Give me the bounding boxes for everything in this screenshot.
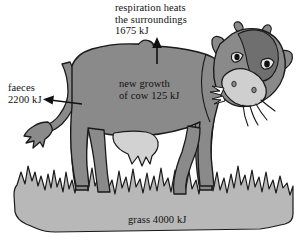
new-growth-line-1: new growth [119,78,170,89]
cow-nostril-left [232,81,236,87]
cow-head [210,22,292,126]
energy-flow-diagram: respiration heatsthe surroundings1675 kJ… [0,0,303,242]
cow-udder [113,131,158,166]
faeces-line-1: faeces [8,82,35,93]
label-new-growth: new growthof cow 125 kJ [119,78,180,101]
faeces-line-2: 2200 kJ [8,94,42,105]
cow-nostril-right [252,87,256,93]
grass-line-1: grass 4000 kJ [128,214,186,225]
label-grass: grass 4000 kJ [128,214,186,226]
new-growth-line-2: of cow 125 kJ [119,90,180,101]
respiration-line-2: the surroundings [115,14,187,25]
label-respiration: respiration heatsthe surroundings1675 kJ [115,2,187,37]
label-faeces: faeces2200 kJ [8,82,42,105]
cow-tail-tuft [24,122,52,148]
respiration-line-1: respiration heats [115,2,186,13]
respiration-line-3: 1675 kJ [115,25,149,36]
